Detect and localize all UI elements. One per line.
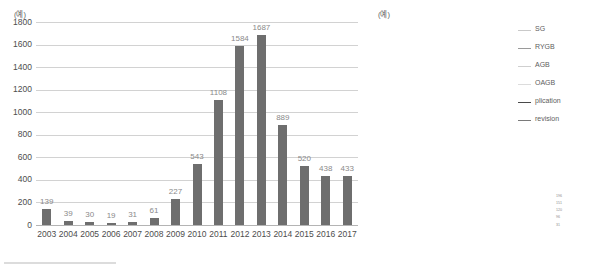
bar <box>278 125 287 225</box>
bar-value-label: 520 <box>288 155 320 163</box>
line-end-value-label: 151 <box>556 202 562 206</box>
legend-item[interactable]: SG <box>518 22 598 40</box>
bar-y-tick-label: 1000 <box>0 108 32 117</box>
legend-item-label: RYGB <box>535 43 555 50</box>
bar <box>214 100 223 225</box>
legend-line-swatch-icon <box>518 66 531 67</box>
bar-value-label: 61 <box>138 207 170 215</box>
legend-item-label: SG <box>535 25 545 32</box>
bar <box>321 176 330 225</box>
legend-line-swatch-icon <box>518 48 531 49</box>
bar-y-tick-label: 1800 <box>0 18 32 27</box>
bar-y-tick-label: 1600 <box>0 40 32 49</box>
bar-y-tick-label: 800 <box>0 130 32 139</box>
bar-value-label: 433 <box>331 165 363 173</box>
legend-item-label: revision <box>535 115 559 122</box>
bar <box>171 199 180 225</box>
two-panel-chart-figure: (예) 020040060080010001200140016001800139… <box>0 0 598 272</box>
bar <box>235 46 244 225</box>
bar-y-tick-label: 1400 <box>0 63 32 72</box>
bar-y-tick-label: 600 <box>0 153 32 162</box>
bar <box>257 35 266 225</box>
line-end-value-label: 96 <box>556 216 560 220</box>
legend-line-swatch-icon <box>518 84 531 85</box>
line-end-value-label: 120 <box>556 209 562 213</box>
bar-value-label: 543 <box>181 153 213 161</box>
bar-x-tick-label: 2017 <box>331 230 363 239</box>
bar-gridline <box>36 67 358 68</box>
legend-line-swatch-icon <box>518 30 531 31</box>
bar-gridline <box>36 45 358 46</box>
legend-item-label: OAGB <box>535 79 555 86</box>
line-chart-legend: SGRYGBAGBOAGBplicationrevision <box>518 22 598 130</box>
bar <box>193 164 202 225</box>
line-chart-unit-label: (예) <box>378 8 390 19</box>
bar-value-label: 1584 <box>224 35 256 43</box>
bar-axis-baseline <box>36 225 358 226</box>
bar-value-label: 139 <box>31 198 63 206</box>
bar-value-label: 1687 <box>245 24 277 32</box>
bar <box>150 218 159 225</box>
legend-item-label: plication <box>535 97 561 104</box>
bar-gridline <box>36 112 358 113</box>
legend-line-swatch-icon <box>518 102 531 103</box>
legend-item-label: AGB <box>535 61 550 68</box>
bar <box>42 209 51 225</box>
line-end-value-label: 196 <box>556 195 562 199</box>
legend-item[interactable]: plication <box>518 94 598 112</box>
bar-y-tick-label: 400 <box>0 175 32 184</box>
bar <box>128 222 137 225</box>
bar-gridline <box>36 135 358 136</box>
legend-item[interactable]: OAGB <box>518 76 598 94</box>
legend-item[interactable]: RYGB <box>518 40 598 58</box>
legend-line-swatch-icon <box>518 120 531 121</box>
bar <box>300 166 309 225</box>
bar <box>64 221 73 225</box>
bar-value-label: 227 <box>160 188 192 196</box>
bar-y-tick-label: 1200 <box>0 85 32 94</box>
bar-value-label: 889 <box>267 114 299 122</box>
bar <box>343 176 352 225</box>
legend-item[interactable]: revision <box>518 112 598 130</box>
legend-item[interactable]: AGB <box>518 58 598 76</box>
bar-value-label: 1108 <box>202 89 234 97</box>
bar-y-tick-label: 0 <box>0 221 32 230</box>
bar <box>107 223 116 225</box>
bar-gridline <box>36 90 358 91</box>
bar <box>85 222 94 225</box>
bar-gridline <box>36 22 358 23</box>
bar-chart-plot-area: 0200400600800100012001400160018001392003… <box>36 22 358 225</box>
bar-y-tick-label: 200 <box>0 198 32 207</box>
bottom-divider-rule <box>4 262 116 264</box>
line-chart-panel: (예) 020040060080010001200140020132014201… <box>366 0 598 272</box>
line-end-value-label: 31 <box>556 224 560 228</box>
bar-chart-panel: (예) 020040060080010001200140016001800139… <box>0 0 366 272</box>
